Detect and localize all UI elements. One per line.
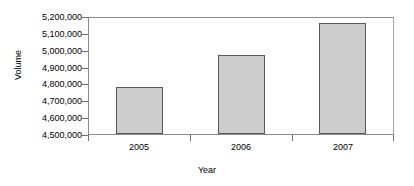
y-tick-label-5200000: 5,200,000 xyxy=(42,13,82,22)
x-tick-mark-left-edge xyxy=(88,135,89,141)
y-tick-label-4800000: 4,800,000 xyxy=(42,80,82,89)
y-axis-title: Volume xyxy=(13,35,23,95)
y-tick-label-5000000: 5,000,000 xyxy=(42,47,82,56)
x-tick-label-2006: 2006 xyxy=(190,142,292,152)
bar-2006 xyxy=(218,55,265,134)
plot-area xyxy=(88,17,394,135)
y-tick-label-4900000: 4,900,000 xyxy=(42,64,82,73)
y-tick-label-4500000: 4,500,000 xyxy=(42,131,82,140)
x-tick-mark-boundary-1 xyxy=(190,135,191,141)
bar-chart-figure: 5,200,000 5,100,000 5,000,000 4,900,000 … xyxy=(0,0,414,186)
bar-2005 xyxy=(116,87,163,134)
y-tick-label-5100000: 5,100,000 xyxy=(42,30,82,39)
bar-2007 xyxy=(319,23,366,134)
x-axis-title: Year xyxy=(0,165,414,175)
x-tick-mark-right-edge xyxy=(393,135,394,141)
y-tick-label-4700000: 4,700,000 xyxy=(42,97,82,106)
x-tick-label-2007: 2007 xyxy=(292,142,394,152)
y-tick-label-4600000: 4,600,000 xyxy=(42,114,82,123)
x-tick-label-2005: 2005 xyxy=(88,142,190,152)
x-tick-mark-boundary-2 xyxy=(292,135,293,141)
